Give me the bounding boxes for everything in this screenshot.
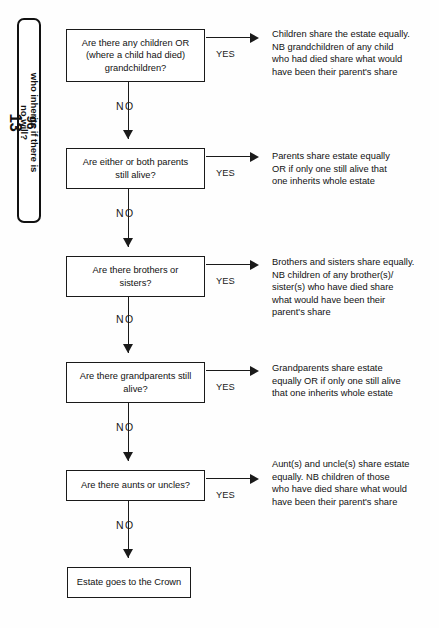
decision-grandparents-line-2: alive? (123, 384, 147, 394)
decision-box-children-text: Are there any children OR (where a child… (82, 37, 189, 74)
decision-children-line-3: grandchildren? (105, 63, 167, 73)
no-label-siblings: NO (116, 314, 135, 325)
terminal-box-crown-label: Estate goes to the Crown (77, 576, 181, 588)
yes-connector-grandparents (206, 370, 251, 371)
no-label-children: NO (116, 101, 135, 112)
decision-box-parents-text: Are either or both parents still alive? (83, 156, 188, 181)
yes-arrowhead-aunts-uncles (250, 474, 259, 484)
yes-arrowhead-grandparents (250, 366, 259, 376)
decision-box-parents: Are either or both parents still alive? (66, 148, 205, 189)
yes-arrowhead-parents (250, 152, 259, 162)
outcome-grandparents-line-2: equally OR if only one still alive (272, 375, 435, 388)
yes-label-children: YES (216, 49, 235, 59)
decision-box-grandparents-text: Are there grandparents still alive? (80, 370, 192, 395)
decision-parents-line-1: Are either or both parents (83, 157, 188, 167)
outcome-siblings-line-2: NB children of any brother(s)/ (272, 269, 435, 282)
outcome-children-line-3: who had died share what would (272, 53, 435, 66)
outcome-children-line-1: Children share the estate equally. (272, 28, 435, 41)
chapter-thumb-tab-content: 96 who inherits if there is no will? 13 (19, 20, 39, 225)
outcome-aunts-uncles-line-3: who have died share what would (272, 483, 435, 496)
decision-box-siblings-text: Are there brothers or sisters? (93, 264, 179, 289)
terminal-box-crown: Estate goes to the Crown (67, 567, 191, 598)
yes-label-siblings: YES (216, 276, 235, 286)
outcome-siblings-line-4: what would have been their (272, 294, 435, 307)
decision-siblings-line-1: Are there brothers or (93, 265, 179, 275)
no-arrowhead-children (123, 130, 133, 139)
outcome-siblings: Brothers and sisters share equally. NB c… (272, 256, 435, 319)
chapter-title-line-2: no will? (19, 73, 29, 172)
outcome-siblings-line-5: parent's share (272, 306, 435, 319)
decision-siblings-line-2: sisters? (119, 278, 151, 288)
decision-box-grandparents: Are there grandparents still alive? (66, 362, 205, 403)
yes-arrowhead-children (250, 33, 259, 43)
decision-parents-line-2: still alive? (115, 170, 155, 180)
yes-connector-siblings (206, 264, 251, 265)
outcome-children-line-2: NB grandchildren of any child (272, 41, 435, 54)
chapter-thumb-tab: 96 who inherits if there is no will? 13 (17, 18, 41, 223)
yes-label-parents: YES (216, 168, 235, 178)
no-label-grandparents: NO (116, 422, 135, 433)
yes-connector-children (206, 37, 251, 38)
no-label-aunts-uncles: NO (116, 520, 135, 531)
yes-arrowhead-siblings (250, 260, 259, 270)
yes-label-grandparents: YES (216, 382, 235, 392)
no-arrowhead-grandparents (123, 452, 133, 461)
yes-connector-aunts-uncles (206, 478, 251, 479)
decision-box-children: Are there any children OR (where a child… (66, 29, 205, 82)
outcome-parents-line-3: one inherits whole estate (272, 175, 435, 188)
no-arrowhead-siblings (123, 344, 133, 353)
outcome-grandparents: Grandparents share estate equally OR if … (272, 362, 435, 400)
chapter-title-line-1: who inherits if there is (29, 73, 39, 172)
outcome-grandparents-line-1: Grandparents share estate (272, 362, 435, 375)
outcome-siblings-line-3: sister(s) who have died share (272, 281, 435, 294)
decision-children-line-2: (where a child had died) (86, 50, 185, 60)
outcome-parents: Parents share estate equally OR if only … (272, 150, 435, 188)
flowchart-page: 96 who inherits if there is no will? 13 … (0, 0, 439, 628)
decision-children-line-1: Are there any children OR (82, 38, 189, 48)
outcome-aunts-uncles: Aunt(s) and uncle(s) share estate equall… (272, 458, 435, 508)
decision-box-aunts-uncles: Are there aunts or uncles? (66, 470, 205, 501)
outcome-siblings-line-1: Brothers and sisters share equally. (272, 256, 435, 269)
decision-grandparents-line-1: Are there grandparents still (80, 371, 192, 381)
decision-aunts-uncles-line-1: Are there aunts or uncles? (81, 480, 190, 490)
outcome-parents-line-1: Parents share estate equally (272, 150, 435, 163)
chapter-title: who inherits if there is no will? (19, 73, 39, 172)
no-label-parents: NO (116, 208, 135, 219)
outcome-children-line-4: have been their parent's share (272, 66, 435, 79)
outcome-aunts-uncles-line-1: Aunt(s) and uncle(s) share estate (272, 458, 435, 471)
outcome-children: Children share the estate equally. NB gr… (272, 28, 435, 78)
decision-box-aunts-uncles-text: Are there aunts or uncles? (81, 479, 190, 491)
yes-label-aunts-uncles: YES (216, 490, 235, 500)
outcome-aunts-uncles-line-4: have been their parent's share (272, 496, 435, 509)
no-arrowhead-parents (123, 238, 133, 247)
outcome-grandparents-line-3: that one inherits whole estate (272, 387, 435, 400)
yes-connector-parents (206, 156, 251, 157)
outcome-aunts-uncles-line-2: equally. NB children of those (272, 471, 435, 484)
no-arrowhead-aunts-uncles (123, 549, 133, 558)
decision-box-siblings: Are there brothers or sisters? (66, 256, 205, 297)
outcome-parents-line-2: OR if only one still alive that (272, 163, 435, 176)
